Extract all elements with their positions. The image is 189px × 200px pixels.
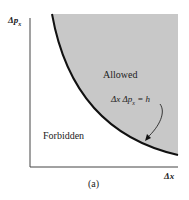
y-axis-label: Δpx <box>8 15 21 27</box>
equation-lhs: Δx Δp <box>111 94 132 104</box>
y-axis-label-text: Δp <box>8 15 18 25</box>
diagram-canvas <box>0 0 189 200</box>
figure-caption: (a) <box>88 178 99 189</box>
uncertainty-equation: Δx Δpx = h <box>111 94 150 106</box>
allowed-label: Allowed <box>103 69 137 80</box>
y-axis-label-subscript: x <box>18 21 21 27</box>
equation-rhs: = h <box>135 94 150 104</box>
x-axis-label: Δx <box>164 171 174 181</box>
forbidden-label: Forbidden <box>43 130 84 141</box>
